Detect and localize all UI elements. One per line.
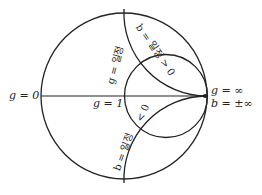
infinity-point — [203, 94, 207, 98]
label-g-infinity: g = ∞ — [211, 85, 243, 96]
label-g-one: g = 1 — [93, 98, 123, 109]
label-b-infinity: b = ±∞ — [211, 98, 253, 109]
label-g-zero: g = 0 — [9, 90, 39, 101]
